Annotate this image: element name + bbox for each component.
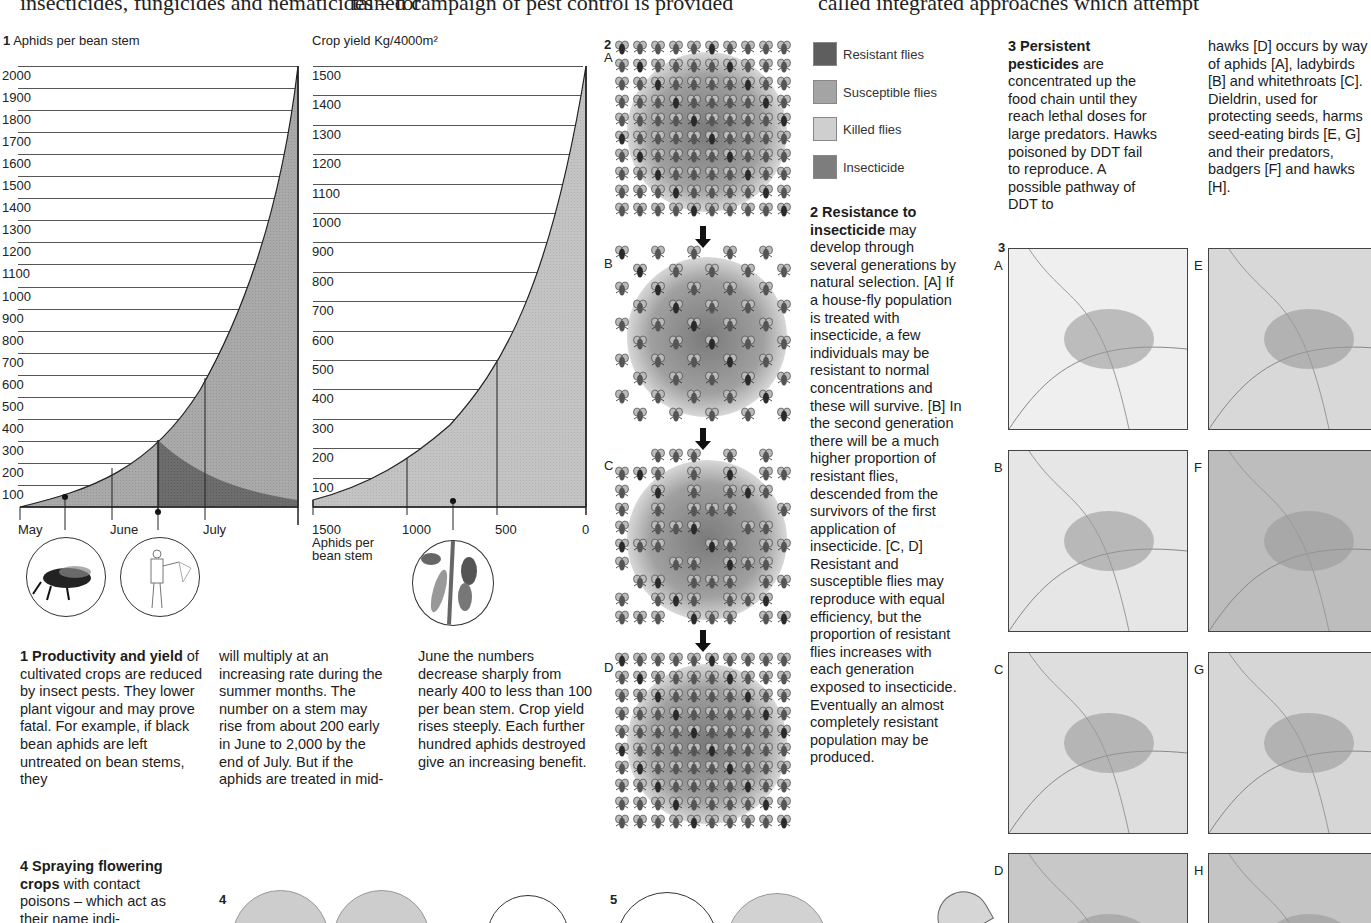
fly-icon	[723, 94, 737, 114]
fly-icon	[615, 58, 629, 78]
fly-icon	[615, 389, 629, 409]
arrow-down-icon	[700, 226, 706, 240]
fly-icon	[705, 610, 719, 630]
fly-icon	[669, 724, 683, 744]
x-label-june: June	[110, 522, 138, 537]
fly-icon	[741, 760, 755, 780]
fly-icon	[759, 652, 773, 672]
fly-icon	[741, 94, 755, 114]
panel-label-a: A	[994, 258, 1003, 273]
caption4: 4 Spraying flowering crops with contact …	[20, 858, 190, 923]
fly-icon	[741, 796, 755, 816]
fly-icon	[651, 706, 665, 726]
fly-icon	[741, 184, 755, 204]
panel-label-c: C	[994, 662, 1003, 677]
figure1-number: 1	[3, 33, 10, 48]
swatch-susceptible	[813, 80, 837, 104]
fly-icon	[633, 263, 647, 283]
fly-icon	[723, 538, 737, 558]
parasite-icon	[726, 893, 828, 923]
illustration-aphids-on-bud	[1008, 248, 1188, 430]
x-label-1000: 1000	[402, 522, 431, 537]
fly-icon	[705, 724, 719, 744]
fly-icon	[687, 281, 701, 301]
fly-icon	[741, 814, 755, 834]
fly-icon	[759, 245, 773, 265]
fly-icon	[651, 166, 665, 186]
yield-x-axis-title: Aphids per bean stem	[312, 536, 374, 562]
fly-icon	[633, 538, 647, 558]
fly-icon	[651, 353, 665, 373]
fly-icon	[759, 130, 773, 150]
fly-icon	[723, 148, 737, 168]
fly-icon	[777, 263, 791, 283]
fly-icon	[741, 263, 755, 283]
fly-icon	[777, 40, 791, 60]
fly-icon	[777, 184, 791, 204]
fly-icon	[687, 245, 701, 265]
fly-icon	[777, 652, 791, 672]
fly-icon	[705, 202, 719, 222]
fly-icon	[759, 484, 773, 504]
fly-icon	[669, 263, 683, 283]
fly-icon	[777, 148, 791, 168]
fly-icon	[723, 281, 737, 301]
aphid-icon	[26, 537, 106, 617]
fly-icon	[615, 592, 629, 612]
fly-icon	[687, 94, 701, 114]
fly-icon	[759, 538, 773, 558]
fly-icon	[651, 389, 665, 409]
fly-icon	[777, 778, 791, 798]
fly-icon	[669, 520, 683, 540]
fly-icon	[723, 592, 737, 612]
fly-icon	[723, 245, 737, 265]
top-text-right: called integrated approaches which attem…	[818, 0, 1199, 16]
fly-icon	[741, 706, 755, 726]
fly-icon	[615, 466, 629, 486]
fly-icon	[741, 166, 755, 186]
fly-icon	[687, 760, 701, 780]
fly-icon	[687, 40, 701, 60]
fly-icon	[759, 94, 773, 114]
fly-icon	[777, 76, 791, 96]
fly-icon	[615, 112, 629, 132]
fly-icon	[687, 610, 701, 630]
fly-icon	[687, 574, 701, 594]
fly-icon	[633, 94, 647, 114]
fly-icon	[759, 112, 773, 132]
fly-icon	[705, 166, 719, 186]
fly-icon	[651, 58, 665, 78]
fly-icon	[651, 484, 665, 504]
fly-icon	[759, 778, 773, 798]
fly-icon	[615, 778, 629, 798]
fly-icon	[651, 448, 665, 468]
arrow-down-icon	[700, 428, 706, 442]
fly-icon	[687, 112, 701, 132]
beetle-icon	[616, 892, 718, 923]
fly-icon	[669, 371, 683, 391]
fly-icon	[615, 706, 629, 726]
fly-icon	[741, 724, 755, 744]
fly-icon	[651, 592, 665, 612]
fly-icon	[633, 742, 647, 762]
fly-icon	[669, 166, 683, 186]
fly-icon	[669, 706, 683, 726]
fly-icon	[723, 389, 737, 409]
fly-icon	[777, 670, 791, 690]
legend-resistant: Resistant flies	[813, 42, 924, 66]
fly-population-c	[615, 448, 795, 633]
fly-icon	[741, 742, 755, 762]
fly-icon	[759, 574, 773, 594]
fly-icon	[669, 796, 683, 816]
fly-icon	[759, 58, 773, 78]
fly-icon	[723, 502, 737, 522]
fly-icon	[705, 814, 719, 834]
fly-icon	[633, 299, 647, 319]
aphids-chart: 2000190018001700160015001400130012001100…	[0, 60, 300, 530]
fly-icon	[759, 520, 773, 540]
fly-icon	[723, 670, 737, 690]
fly-icon	[741, 148, 755, 168]
fly-icon	[687, 556, 701, 576]
fly-icon	[633, 58, 647, 78]
fly-icon	[669, 58, 683, 78]
